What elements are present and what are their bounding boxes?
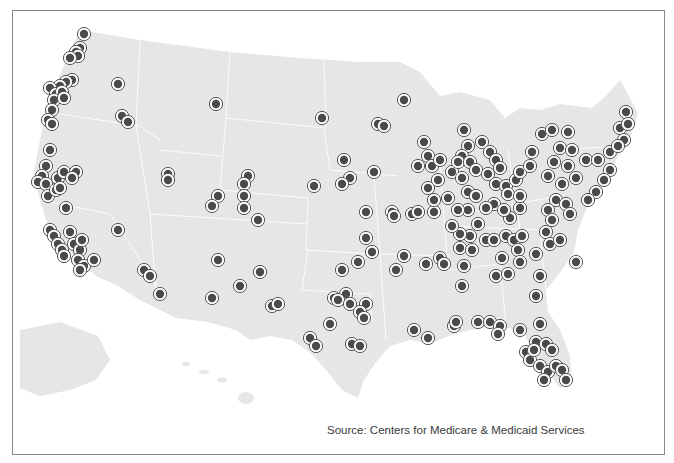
location-marker[interactable]	[479, 201, 492, 214]
location-marker[interactable]	[541, 169, 554, 182]
location-marker[interactable]	[271, 297, 284, 310]
location-marker[interactable]	[411, 159, 424, 172]
location-marker[interactable]	[495, 251, 508, 264]
location-marker[interactable]	[619, 105, 632, 118]
location-marker[interactable]	[75, 233, 88, 246]
location-marker[interactable]	[63, 51, 76, 64]
location-marker[interactable]	[511, 243, 524, 256]
location-marker[interactable]	[561, 125, 574, 138]
location-marker[interactable]	[323, 317, 336, 330]
location-marker[interactable]	[501, 187, 514, 200]
location-marker[interactable]	[63, 225, 76, 238]
location-marker[interactable]	[537, 373, 550, 386]
location-marker[interactable]	[111, 223, 124, 236]
location-marker[interactable]	[411, 205, 424, 218]
location-marker[interactable]	[545, 343, 558, 356]
location-marker[interactable]	[441, 191, 454, 204]
location-marker[interactable]	[57, 91, 70, 104]
location-marker[interactable]	[513, 201, 526, 214]
location-marker[interactable]	[545, 213, 558, 226]
location-marker[interactable]	[427, 205, 440, 218]
location-marker[interactable]	[337, 153, 350, 166]
location-marker[interactable]	[559, 373, 572, 386]
location-marker[interactable]	[77, 27, 90, 40]
location-marker[interactable]	[335, 177, 348, 190]
location-marker[interactable]	[611, 139, 624, 152]
location-marker[interactable]	[491, 327, 504, 340]
location-marker[interactable]	[581, 193, 594, 206]
location-marker[interactable]	[455, 279, 468, 292]
location-marker[interactable]	[465, 243, 478, 256]
location-marker[interactable]	[387, 209, 400, 222]
location-marker[interactable]	[237, 189, 250, 202]
location-marker[interactable]	[529, 289, 542, 302]
location-marker[interactable]	[555, 177, 568, 190]
location-marker[interactable]	[73, 263, 86, 276]
location-marker[interactable]	[493, 161, 506, 174]
location-marker[interactable]	[513, 323, 526, 336]
location-marker[interactable]	[545, 123, 558, 136]
location-marker[interactable]	[529, 247, 542, 260]
location-marker[interactable]	[397, 249, 410, 262]
location-marker[interactable]	[489, 269, 502, 282]
location-marker[interactable]	[451, 155, 464, 168]
location-marker[interactable]	[251, 213, 264, 226]
location-marker[interactable]	[359, 231, 372, 244]
location-marker[interactable]	[365, 245, 378, 258]
location-marker[interactable]	[65, 171, 78, 184]
location-marker[interactable]	[565, 143, 578, 156]
location-marker[interactable]	[533, 317, 546, 330]
location-marker[interactable]	[497, 203, 510, 216]
location-marker[interactable]	[417, 135, 430, 148]
location-marker[interactable]	[209, 97, 222, 110]
location-marker[interactable]	[453, 241, 466, 254]
location-marker[interactable]	[501, 267, 514, 280]
location-marker[interactable]	[527, 343, 540, 356]
location-marker[interactable]	[437, 257, 450, 270]
location-marker[interactable]	[553, 141, 566, 154]
location-marker[interactable]	[407, 323, 420, 336]
location-marker[interactable]	[433, 153, 446, 166]
location-marker[interactable]	[389, 263, 402, 276]
location-marker[interactable]	[237, 177, 250, 190]
location-marker[interactable]	[53, 181, 66, 194]
location-marker[interactable]	[161, 173, 174, 186]
location-marker[interactable]	[59, 201, 72, 214]
location-marker[interactable]	[553, 233, 566, 246]
location-marker[interactable]	[211, 253, 224, 266]
location-marker[interactable]	[367, 165, 380, 178]
location-marker[interactable]	[397, 93, 410, 106]
location-marker[interactable]	[523, 159, 536, 172]
location-marker[interactable]	[471, 315, 484, 328]
location-marker[interactable]	[205, 291, 218, 304]
location-marker[interactable]	[335, 263, 348, 276]
location-marker[interactable]	[307, 179, 320, 192]
location-marker[interactable]	[451, 203, 464, 216]
location-marker[interactable]	[237, 201, 250, 214]
location-marker[interactable]	[569, 255, 582, 268]
location-marker[interactable]	[377, 119, 390, 132]
location-marker[interactable]	[359, 205, 372, 218]
location-marker[interactable]	[205, 199, 218, 212]
location-marker[interactable]	[457, 259, 470, 272]
location-marker[interactable]	[357, 311, 370, 324]
location-marker[interactable]	[427, 193, 440, 206]
location-marker[interactable]	[457, 123, 470, 136]
location-marker[interactable]	[351, 255, 364, 268]
location-marker[interactable]	[533, 269, 546, 282]
location-marker[interactable]	[111, 77, 124, 90]
location-marker[interactable]	[469, 163, 482, 176]
location-marker[interactable]	[353, 339, 366, 352]
location-marker[interactable]	[233, 279, 246, 292]
location-marker[interactable]	[315, 111, 328, 124]
location-marker[interactable]	[253, 265, 266, 278]
location-marker[interactable]	[597, 173, 610, 186]
location-marker[interactable]	[421, 181, 434, 194]
location-marker[interactable]	[153, 287, 166, 300]
location-marker[interactable]	[563, 207, 576, 220]
location-marker[interactable]	[57, 249, 70, 262]
location-marker[interactable]	[421, 331, 434, 344]
location-marker[interactable]	[469, 189, 482, 202]
location-marker[interactable]	[121, 115, 134, 128]
location-marker[interactable]	[513, 255, 526, 268]
